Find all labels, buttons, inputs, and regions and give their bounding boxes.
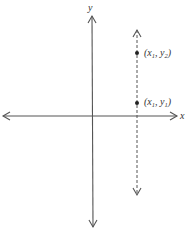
- point-x1-y2: [135, 51, 139, 55]
- y-axis: [92, 16, 93, 227]
- point-label-x1-y2: (x1, y2): [144, 47, 172, 59]
- x-axis-label: x: [179, 110, 185, 121]
- coordinate-plane: y x (x1, y2) (x1, y1): [0, 0, 189, 231]
- point-label-x1-y1: (x1, y1): [144, 96, 172, 108]
- y-axis-label: y: [87, 2, 93, 13]
- point-x1-y1: [135, 101, 139, 105]
